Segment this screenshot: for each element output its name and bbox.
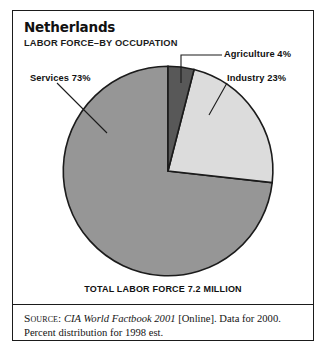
source-label: Source: [24, 312, 61, 324]
source-work-title: CIA World Factbook 2001 [64, 313, 176, 324]
source-divider [13, 304, 313, 305]
figure-panel: Netherlands LABOR FORCE–BY OCCUPATION Ag… [12, 10, 314, 341]
total-labor-force-caption: TOTAL LABOR FORCE 7.2 MILLION [19, 283, 307, 294]
callout-label-agriculture: Agriculture 4% [224, 49, 291, 59]
source-note: Source: CIA World Factbook 2001 [Online]… [24, 311, 303, 340]
callout-label-industry: Industry 23% [227, 73, 286, 83]
callout-label-services: Services 73% [30, 73, 91, 83]
